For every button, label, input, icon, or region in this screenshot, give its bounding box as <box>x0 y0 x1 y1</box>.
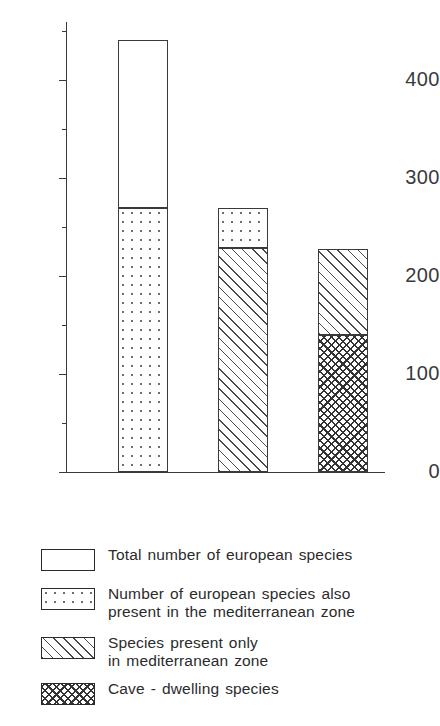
plot-area: 400 300 200 100 0 <box>0 0 440 500</box>
stacked-bar-chart-figure: 400 300 200 100 0 Total number of europe… <box>0 0 440 726</box>
legend-label-also-present: Number of european species also present … <box>108 585 355 620</box>
y-tick-minor-250 <box>62 227 67 228</box>
y-tick-400 <box>59 80 67 81</box>
bar-2-segment-dots <box>218 208 268 247</box>
y-tick-100 <box>59 374 67 375</box>
y-axis-line <box>66 22 67 472</box>
y-axis-label-100: 100 <box>392 363 440 383</box>
bar-1-segment-blank <box>118 40 168 209</box>
legend-swatch-dots-icon <box>41 588 95 610</box>
bar-3-segment-cross-hatch <box>318 335 368 472</box>
bar-2-segment-diagonal-hatch <box>218 248 268 472</box>
y-tick-0 <box>59 472 67 473</box>
legend-label-present-only: Species present only in mediterranean zo… <box>108 634 268 669</box>
bar-3-segment-diagonal-hatch <box>318 249 368 335</box>
y-tick-minor-350 <box>62 129 67 130</box>
y-axis-label-0: 0 <box>392 461 440 481</box>
legend-label-total: Total number of european species <box>108 546 352 564</box>
bar-3 <box>318 249 368 472</box>
y-tick-minor-150 <box>62 325 67 326</box>
y-tick-300 <box>59 178 67 179</box>
y-axis-label-200: 200 <box>392 265 440 285</box>
y-tick-minor-450 <box>62 31 67 32</box>
y-tick-minor-50 <box>62 423 67 424</box>
x-axis-line <box>66 472 385 473</box>
bar-1-segment-dots <box>118 208 168 472</box>
bar-1 <box>118 40 168 472</box>
legend-label-cave-dwelling: Cave - dwelling species <box>108 680 279 698</box>
legend-swatch-blank-icon <box>41 549 95 571</box>
y-axis-label-300: 300 <box>392 167 440 187</box>
chart-legend: Total number of european species Number … <box>0 500 440 726</box>
legend-swatch-cross-hatch-icon <box>41 683 95 705</box>
legend-swatch-diagonal-hatch-icon <box>41 637 95 659</box>
bar-2 <box>218 208 268 472</box>
y-tick-200 <box>59 276 67 277</box>
y-axis-label-400: 400 <box>392 69 440 89</box>
